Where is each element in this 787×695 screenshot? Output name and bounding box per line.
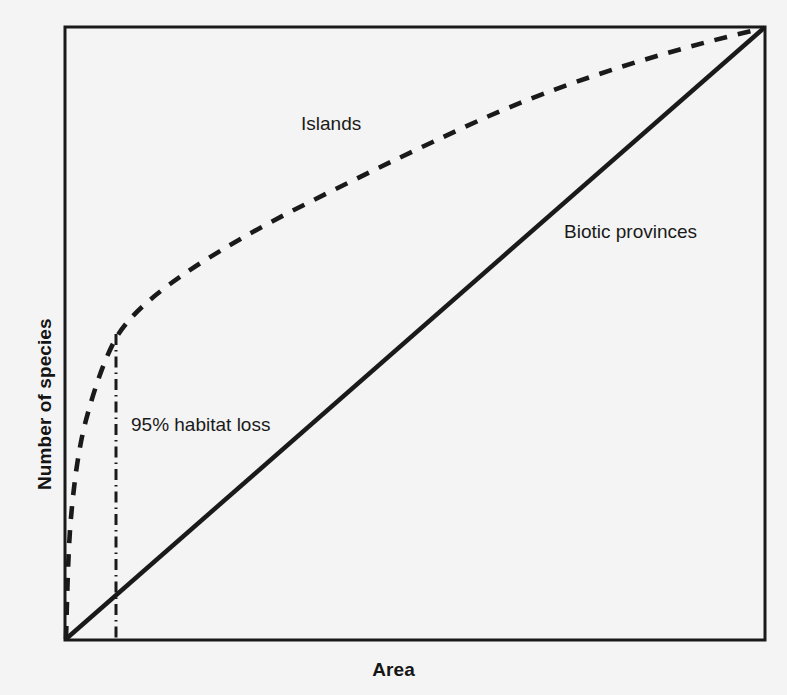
series-label-biotic-provinces: Biotic provinces [564,221,697,243]
series-label-islands: Islands [301,113,361,135]
chart-canvas [0,0,787,695]
annotation-label-habitat-loss: 95% habitat loss [131,414,270,436]
x-axis-title: Area [0,659,787,681]
series-line-biotic-provinces [66,28,764,639]
species-area-chart-figure: Number of species Area Islands Biotic pr… [0,0,787,695]
y-axis-title: Number of species [34,318,56,490]
